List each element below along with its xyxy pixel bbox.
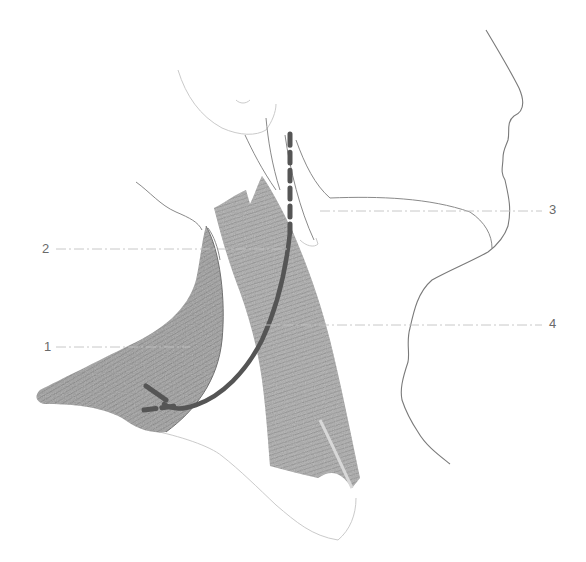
sternocleidomastoid-muscle bbox=[214, 176, 360, 488]
trapezius-muscle bbox=[37, 226, 224, 432]
label-4: 4 bbox=[549, 317, 556, 330]
label-3: 3 bbox=[549, 203, 556, 216]
neck-anatomy-diagram bbox=[0, 0, 586, 562]
face-profile-outline bbox=[401, 30, 523, 464]
label-1: 1 bbox=[44, 340, 51, 353]
label-2: 2 bbox=[42, 242, 49, 255]
ear-outline bbox=[178, 70, 276, 134]
